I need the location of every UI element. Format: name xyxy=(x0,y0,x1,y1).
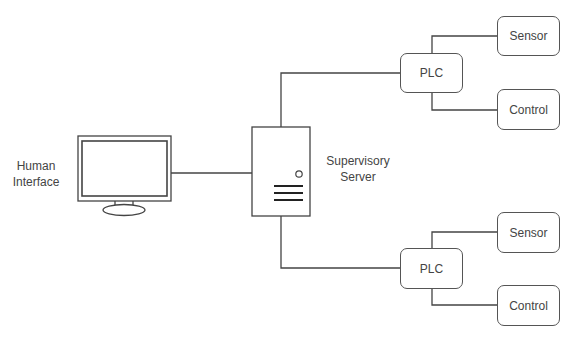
control-node-bottom: Control xyxy=(497,285,560,326)
connector-plc-bottom-control xyxy=(432,289,497,305)
monitor-icon xyxy=(78,136,171,216)
connector-plc-top-control xyxy=(432,93,497,110)
plc-node-top: PLC xyxy=(400,53,463,93)
connector-plc-bottom-sensor xyxy=(432,232,497,248)
supervisory-server-label: Supervisory Server xyxy=(318,153,398,185)
plc-top-label: PLC xyxy=(420,66,443,80)
sensor-top-label: Sensor xyxy=(509,29,547,43)
human-interface-label-line1: Human xyxy=(2,158,70,174)
human-interface-label-line2: Interface xyxy=(2,174,70,190)
sensor-node-bottom: Sensor xyxy=(497,212,560,253)
server-tower-icon xyxy=(252,127,310,216)
control-top-label: Control xyxy=(509,103,548,117)
plc-node-bottom: PLC xyxy=(400,248,463,289)
connector-plc-top-sensor xyxy=(432,36,497,53)
server-label-line1: Supervisory xyxy=(318,153,398,169)
human-interface-label: Human Interface xyxy=(2,158,70,190)
sensor-bottom-label: Sensor xyxy=(509,226,547,240)
server-label-line2: Server xyxy=(318,169,398,185)
connector-server-plc-top xyxy=(281,73,400,127)
connector-server-plc-bottom xyxy=(281,216,400,268)
plc-bottom-label: PLC xyxy=(420,262,443,276)
control-node-top: Control xyxy=(497,89,560,130)
control-bottom-label: Control xyxy=(509,299,548,313)
sensor-node-top: Sensor xyxy=(497,16,560,56)
connector-layer xyxy=(0,0,576,342)
